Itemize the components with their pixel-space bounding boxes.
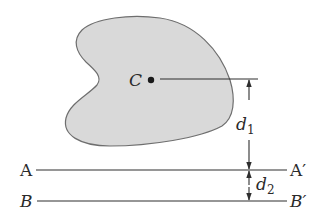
- axis-a-right-label: A′: [289, 160, 306, 180]
- parallel-axis-diagram: C A A′ B B′ d1 d2: [0, 0, 325, 224]
- dimension-d1-label: d1: [236, 114, 255, 137]
- axis-a-left-label: A: [19, 160, 33, 180]
- centroid-dot: [148, 77, 154, 83]
- centroid-label: C: [129, 70, 142, 90]
- axis-b-right-label: B′: [289, 191, 306, 211]
- dimension-d2-label: d2: [256, 174, 275, 197]
- axis-b-left-label: B: [19, 191, 33, 211]
